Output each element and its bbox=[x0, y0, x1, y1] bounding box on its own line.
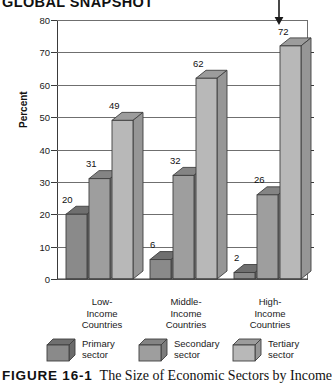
gridline-80 bbox=[57, 20, 308, 21]
figure-caption: FIGURE 16-1The Size of Economic Sectors … bbox=[2, 366, 328, 384]
y-tick-60: 60 bbox=[24, 81, 50, 91]
legend-label-primary-sector: Primary sector bbox=[82, 338, 115, 360]
tertiary-sector-swatch-icon bbox=[232, 338, 262, 362]
tick-left-50 bbox=[51, 117, 57, 118]
x-category-middle-income-line3: Countries bbox=[140, 319, 232, 331]
x-category-middle-income-line1: Middle- bbox=[140, 296, 232, 308]
legend-label-tertiary-sector-line2: sector bbox=[268, 349, 299, 360]
tick-right-30 bbox=[308, 182, 314, 183]
legend-label-secondary-sector-line1: Secondary bbox=[174, 338, 219, 349]
x-category-low-income-line2: Income bbox=[56, 308, 148, 320]
tick-left-80 bbox=[51, 20, 57, 21]
y-tick-50: 50 bbox=[24, 113, 50, 123]
y-tick-80: 80 bbox=[24, 16, 50, 26]
tick-left-10 bbox=[51, 247, 57, 248]
tick-right-20 bbox=[308, 214, 314, 215]
down-arrow-icon bbox=[272, 0, 286, 26]
tick-right-50 bbox=[308, 117, 314, 118]
y-tick-70: 70 bbox=[24, 48, 50, 58]
bar-label-low-tertiary: 49 bbox=[109, 101, 120, 111]
bar-label-middle-tertiary: 62 bbox=[193, 59, 204, 69]
figure-number: FIGURE 16-1 bbox=[2, 368, 93, 383]
legend-label-tertiary-sector: Tertiary sector bbox=[268, 338, 299, 360]
plot-box bbox=[57, 20, 308, 279]
gridline-30 bbox=[57, 182, 308, 183]
tick-left-30 bbox=[51, 182, 57, 183]
y-axis-tick-labels: 80 70 60 50 40 30 20 10 0 bbox=[18, 20, 50, 279]
chart-area: Percent 80 70 60 50 40 30 20 10 0 bbox=[0, 0, 328, 300]
tick-left-20 bbox=[51, 214, 57, 215]
tick-right-60 bbox=[308, 85, 314, 86]
x-category-high-income-line2: Income bbox=[224, 308, 316, 320]
y-tick-0: 0 bbox=[24, 275, 50, 285]
legend-label-primary-sector-line1: Primary bbox=[82, 338, 115, 349]
gridline-60 bbox=[57, 85, 308, 86]
y-tick-20: 20 bbox=[24, 210, 50, 220]
tick-right-70 bbox=[308, 52, 314, 53]
x-category-low-income-line3: Countries bbox=[56, 319, 148, 331]
bar-label-low-primary: 20 bbox=[62, 195, 73, 205]
gridline-20 bbox=[57, 214, 308, 215]
bar-label-high-secondary: 26 bbox=[254, 175, 265, 185]
tick-right-10 bbox=[308, 247, 314, 248]
y-tick-10: 10 bbox=[24, 243, 50, 253]
tick-left-0 bbox=[51, 279, 57, 280]
secondary-sector-swatch-icon bbox=[138, 338, 168, 362]
figure-title: The Size of Economic Sectors by Income bbox=[100, 368, 332, 383]
gridline-40 bbox=[57, 150, 308, 151]
bar-label-high-tertiary: 72 bbox=[278, 27, 289, 37]
bar-label-middle-primary: 6 bbox=[150, 240, 155, 250]
y-tick-30: 30 bbox=[24, 178, 50, 188]
x-category-low-income-line1: Low- bbox=[56, 296, 148, 308]
x-category-high-income-line1: High- bbox=[224, 296, 316, 308]
tick-left-40 bbox=[51, 150, 57, 151]
gridline-0 bbox=[57, 279, 308, 280]
legend-label-secondary-sector-line2: sector bbox=[174, 349, 219, 360]
x-category-low-income: Low- Income Countries bbox=[56, 296, 148, 331]
bar-label-middle-secondary: 32 bbox=[170, 156, 181, 166]
tick-left-70 bbox=[51, 52, 57, 53]
y-tick-40: 40 bbox=[24, 146, 50, 156]
chart-legend: Primary sector Secondary sector Tertiary… bbox=[0, 334, 328, 364]
tick-right-40 bbox=[308, 150, 314, 151]
x-category-middle-income: Middle- Income Countries bbox=[140, 296, 232, 331]
bar-label-high-primary: 2 bbox=[234, 253, 239, 263]
legend-label-tertiary-sector-line1: Tertiary bbox=[268, 338, 299, 349]
gridline-50 bbox=[57, 117, 308, 118]
legend-label-primary-sector-line2: sector bbox=[82, 349, 115, 360]
x-category-middle-income-line2: Income bbox=[140, 308, 232, 320]
gridline-70 bbox=[57, 52, 308, 53]
tick-left-60 bbox=[51, 85, 57, 86]
gridline-10 bbox=[57, 247, 308, 248]
x-category-high-income-line3: Countries bbox=[224, 319, 316, 331]
primary-sector-swatch-icon bbox=[46, 338, 76, 362]
bar-label-low-secondary: 31 bbox=[86, 159, 97, 169]
x-category-high-income: High- Income Countries bbox=[224, 296, 316, 331]
legend-label-secondary-sector: Secondary sector bbox=[174, 338, 219, 360]
